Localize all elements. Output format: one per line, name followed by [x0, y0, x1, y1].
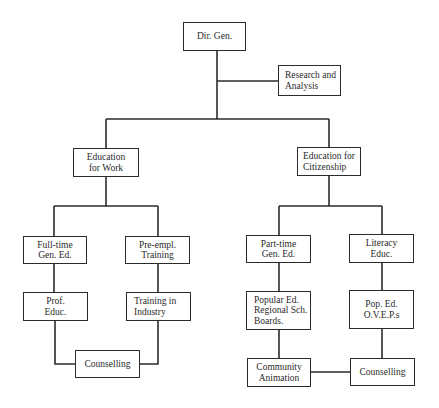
node-dir-gen: Dir. Gen.: [183, 22, 246, 51]
node-label: Educ.: [45, 307, 67, 318]
node-education-for-work: Education for Work: [73, 148, 139, 177]
node-label: Community: [256, 362, 301, 373]
node-label: Literacy: [366, 238, 398, 249]
node-community-animation: Community Animation: [247, 358, 311, 387]
node-prof-educ: Prof. Educ.: [23, 292, 88, 321]
node-label: Animation: [259, 373, 300, 384]
node-label: O.V.E.P.s: [364, 310, 400, 321]
node-label: Dir. Gen.: [197, 31, 232, 42]
node-label: Counselling: [85, 359, 131, 370]
node-label: Gen. Ed.: [38, 250, 72, 261]
node-label: Citizenship: [303, 162, 346, 173]
node-counselling-work: Counselling: [75, 350, 140, 378]
node-label: Education: [87, 152, 126, 163]
node-research-analysis: Research and Analysis: [278, 65, 341, 96]
node-fulltime-gen-ed: Full-time Gen. Ed.: [23, 236, 87, 264]
node-label: Industry: [134, 307, 166, 318]
node-label: Part-time: [261, 239, 296, 250]
node-pop-ed-oveps: Pop. Ed. O.V.E.P.s: [349, 290, 414, 329]
node-label: Pop. Ed.: [365, 299, 397, 310]
node-education-for-citizenship: Education for Citizenship: [297, 147, 361, 176]
node-label: Full-time: [37, 240, 72, 251]
node-label: Education for: [303, 151, 355, 162]
node-label: Research and: [285, 70, 336, 81]
node-counselling-citizenship: Counselling: [350, 358, 415, 386]
connector-industry-counselling: [140, 321, 158, 364]
node-label: Popular Ed.: [254, 295, 299, 306]
org-chart: Dir. Gen. Research and Analysis Educatio…: [0, 0, 439, 408]
node-label: Training: [141, 250, 173, 261]
node-label: Pre-empl.: [139, 240, 176, 251]
node-label: Counselling: [360, 367, 406, 378]
node-label: Educ.: [371, 249, 393, 260]
node-label: Training in: [134, 296, 176, 307]
connector-prof-counselling: [55, 321, 75, 364]
node-popular-ed-regional: Popular Ed. Regional Sch. Boards.: [246, 291, 311, 330]
node-label: for Work: [89, 163, 123, 174]
node-label: Gen. Ed.: [262, 249, 296, 260]
node-training-in-industry: Training in Industry: [126, 292, 191, 321]
connector-lines: [0, 0, 439, 408]
node-preempl-training: Pre-empl. Training: [125, 236, 190, 264]
node-label: Regional Sch.: [254, 305, 307, 316]
node-literacy-educ: Literacy Educ.: [349, 234, 414, 263]
node-label: Prof.: [46, 296, 65, 307]
node-label: Analysis: [285, 81, 318, 92]
node-label: Boards.: [254, 316, 283, 327]
node-parttime-gen-ed: Part-time Gen. Ed.: [246, 235, 311, 263]
